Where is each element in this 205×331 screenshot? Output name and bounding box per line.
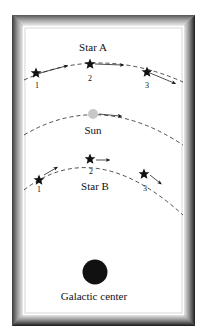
star-b-pos-3-label: 3 <box>143 184 147 193</box>
star-a-pos-3-label: 3 <box>145 81 149 90</box>
sun-icon <box>88 109 98 119</box>
star-a-pos-1-label: 1 <box>35 81 39 90</box>
star-b-pos-2-label: 2 <box>89 167 93 176</box>
star-a-label: Star A <box>79 41 107 53</box>
galactic-center-icon <box>83 260 108 285</box>
star-a-pos-2-label: 2 <box>88 74 92 83</box>
star-b-pos-1-label: 1 <box>37 185 41 194</box>
star-b-label: Star B <box>81 180 109 192</box>
sun-label: Sun <box>84 124 102 136</box>
galactic-center-label: Galactic center <box>61 290 128 302</box>
galactic-orbit-diagram: Star A 1 2 3 Sun 1 2 3 Star B Galactic c… <box>0 0 205 331</box>
